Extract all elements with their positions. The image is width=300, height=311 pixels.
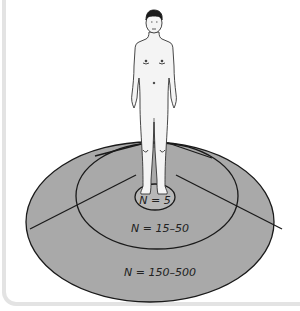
label-inner-ring: N = 5 (139, 194, 170, 207)
label-outer-ring: N = 150–500 (124, 266, 196, 279)
label-middle-ring: N = 15–50 (131, 222, 189, 235)
concentric-circles-diagram: N = 5 N = 15–50 N = 150–500 (0, 0, 300, 311)
